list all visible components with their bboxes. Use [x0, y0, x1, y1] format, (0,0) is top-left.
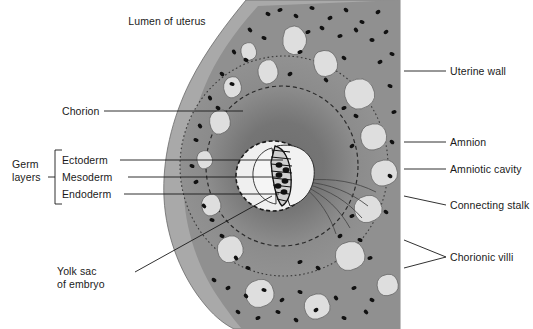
- label-uterine-wall: Uterine wall: [450, 65, 506, 78]
- label-ectoderm: Ectoderm: [62, 154, 108, 167]
- label-endoderm: Endoderm: [62, 188, 111, 201]
- germ-layers-bracket: [48, 150, 62, 204]
- label-yolk-sac-line1: Yolk sac: [57, 265, 97, 278]
- label-lumen-of-uterus: Lumen of uterus: [107, 15, 227, 28]
- label-amniotic-cavity: Amniotic cavity: [450, 163, 522, 176]
- label-yolk-sac-line2: of embryo: [57, 278, 105, 291]
- label-germ-layers-line1: Germ: [12, 158, 39, 171]
- label-connecting-stalk: Connecting stalk: [450, 199, 529, 212]
- label-amnion: Amnion: [450, 136, 486, 149]
- leader-chorionic-villi-1: [404, 240, 446, 257]
- label-mesoderm: Mesoderm: [62, 171, 112, 184]
- leader-chorionic-villi-2: [404, 257, 446, 268]
- label-chorionic-villi: Chorionic villi: [450, 251, 513, 264]
- leader-connecting-stalk: [404, 196, 446, 205]
- label-germ-layers-line2: layers: [12, 171, 41, 184]
- embryo-implantation-figure: Lumen of uterus Chorion Germ layers Ecto…: [0, 0, 533, 329]
- label-chorion: Chorion: [62, 105, 99, 118]
